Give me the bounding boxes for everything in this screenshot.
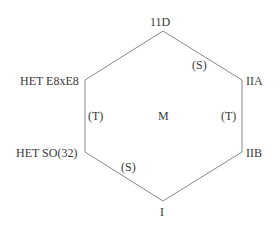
edge-label-s-bottom-left: (S) [121, 160, 136, 174]
center-label-m: M [158, 109, 169, 123]
edge-label-t-right: (T) [221, 109, 236, 123]
vertex-label-iib: IIB [246, 146, 262, 160]
vertex-label-11d: 11D [150, 15, 170, 29]
vertex-label-iia: IIA [246, 74, 263, 88]
vertex-label-het-so32: HET SO(32) [16, 146, 77, 160]
edge-label-s-top-right: (S) [192, 58, 207, 72]
m-theory-duality-hexagon: 11D IIA IIB I HET SO(32) HET E8xE8 (S) (… [0, 0, 279, 227]
hexagon-shape [0, 0, 279, 227]
vertex-label-het-e8xe8: HET E8xE8 [20, 74, 79, 88]
edge-label-t-left: (T) [88, 109, 103, 123]
vertex-label-i: I [160, 205, 164, 219]
